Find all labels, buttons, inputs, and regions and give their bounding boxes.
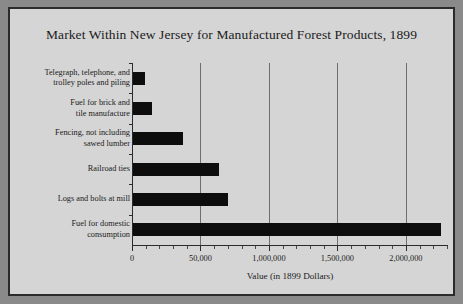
x-axis-minor-tick [187, 246, 188, 249]
y-axis-category-labels: Telegraph, telephone, andtrolley poles a… [14, 63, 130, 245]
gridline-500000 [200, 63, 201, 245]
category-label: Telegraph, telephone, andtrolley poles a… [18, 68, 130, 89]
x-axis-minor-tick [392, 246, 393, 249]
x-axis-minor-tick [310, 246, 311, 249]
x-axis-major-tick [200, 246, 201, 251]
x-axis-minor-tick [228, 246, 229, 249]
category-label: Fuel for domesticconsumption [18, 219, 130, 240]
x-axis-minor-tick [365, 246, 366, 249]
category-label-line: Telegraph, telephone, and [18, 68, 130, 79]
category-label: Logs and bolts at mill [18, 194, 130, 205]
gridline-2000000 [406, 63, 407, 245]
bar [133, 223, 441, 236]
x-axis-title: Value (in 1899 Dollars) [132, 271, 448, 281]
x-axis-major-tick [269, 246, 270, 251]
chart-title: Market Within New Jersey for Manufacture… [10, 27, 453, 43]
x-axis-minor-tick [296, 246, 297, 249]
category-label-line: Railroad ties [18, 164, 130, 175]
x-axis-minor-tick [159, 246, 160, 249]
category-label: Railroad ties [18, 164, 130, 175]
bar [133, 72, 145, 85]
category-label-line: Fuel for domestic [18, 219, 130, 230]
x-axis-line [132, 245, 448, 246]
x-axis-minor-tick [255, 246, 256, 249]
chart-figure: Market Within New Jersey for Manufacture… [8, 7, 455, 296]
x-axis-tick-label: 0 [102, 254, 162, 263]
x-axis-minor-tick [379, 246, 380, 249]
x-axis-major-tick [406, 246, 407, 251]
gridline-1000000 [269, 63, 270, 245]
plot-area [132, 63, 447, 245]
bar [133, 193, 228, 206]
x-axis-minor-tick [420, 246, 421, 249]
category-label-line: sawed lumber [18, 139, 130, 150]
category-label-line: Fuel for brick and [18, 98, 130, 109]
y-axis-tick [129, 184, 133, 185]
category-label-line: Logs and bolts at mill [18, 194, 130, 205]
category-label: Fencing, not includingsawed lumber [18, 128, 130, 149]
y-axis-tick [129, 63, 133, 64]
category-label-line: trolley poles and piling [18, 78, 130, 89]
x-axis-major-tick [337, 246, 338, 251]
bar [133, 132, 183, 145]
x-axis-minor-tick [433, 246, 434, 249]
category-label-line: Fencing, not including [18, 128, 130, 139]
x-axis-minor-tick [283, 246, 284, 249]
x-axis-minor-tick [351, 246, 352, 249]
x-axis-tick-label: 1,500,000 [307, 254, 367, 263]
bar [133, 102, 152, 115]
x-axis-minor-tick [146, 246, 147, 249]
x-axis-tick-label: 1,000,000 [239, 254, 299, 263]
category-label-line: consumption [18, 230, 130, 241]
y-axis-tick [129, 124, 133, 125]
x-axis-tick-label: 50,000 [170, 254, 230, 263]
y-axis-tick [129, 93, 133, 94]
category-label: Fuel for brick andtile manufacture [18, 98, 130, 119]
x-axis-minor-tick [447, 246, 448, 249]
x-axis-major-tick [132, 246, 133, 251]
x-axis-minor-tick [324, 246, 325, 249]
y-axis-tick [129, 215, 133, 216]
y-axis-tick [129, 154, 133, 155]
bar [133, 163, 219, 176]
gridline-1500000 [337, 63, 338, 245]
category-label-line: tile manufacture [18, 109, 130, 120]
x-axis-minor-tick [173, 246, 174, 249]
x-axis-minor-tick [214, 246, 215, 249]
x-axis-minor-tick [242, 246, 243, 249]
x-axis-tick-label: 2,000,000 [376, 254, 436, 263]
